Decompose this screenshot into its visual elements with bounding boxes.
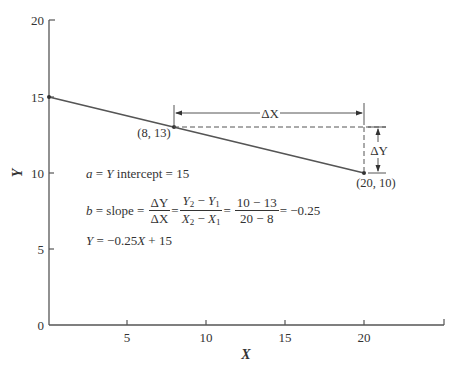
x-ticks [127, 320, 364, 325]
equation-mid: = −0.25 [93, 233, 137, 248]
point-label-20-10: (20, 10) [356, 176, 396, 190]
y-tick-label: 10 [31, 166, 44, 181]
data-point-intercept [47, 95, 51, 99]
fraction-values: 10 − 13 20 − 8 [235, 196, 279, 225]
fraction-coords: Y2 − Y1 X2 − X1 [180, 194, 223, 227]
y-tick-label: 5 [38, 242, 45, 257]
y-tick-label: 15 [31, 90, 44, 105]
x-tick-label: 10 [200, 330, 213, 345]
slope-text: = slope = [93, 204, 148, 217]
arrowhead-right [356, 111, 363, 116]
slope-annotation: b = slope = ΔY ΔX = Y2 − Y1 X2 − X1 = 10… [86, 194, 320, 227]
eq-sign: = [223, 204, 230, 217]
fraction-delta: ΔY ΔX [149, 196, 171, 225]
minus: − [194, 193, 208, 208]
y-axis-title: Y [10, 167, 25, 177]
regression-line [49, 97, 364, 173]
equation-rest: + 15 [145, 233, 172, 248]
x-tick-label: 20 [358, 330, 371, 345]
var: X [182, 211, 190, 226]
y-tick-label: 0 [38, 318, 45, 333]
intercept-text: intercept = 15 [114, 166, 190, 181]
y-ticks [49, 97, 54, 249]
arrowhead-down [376, 165, 381, 172]
frac-den: ΔX [149, 211, 171, 225]
frac-num: ΔY [149, 196, 171, 211]
x-tick-label: 5 [124, 330, 131, 345]
frac-num: 10 − 13 [235, 196, 279, 211]
x-tick-label: 15 [279, 330, 292, 345]
eq-sign: = [93, 166, 107, 181]
var-X: X [137, 233, 145, 248]
slope-result: = −0.25 [280, 204, 321, 217]
arrowhead-up [376, 128, 381, 135]
equation-annotation: Y = −0.25X + 15 [86, 234, 172, 247]
var: Y [182, 193, 189, 208]
frac-den: 20 − 8 [238, 211, 275, 225]
chart-canvas: 20 15 10 5 0 5 10 15 20 X Y (8, 13) (20,… [0, 0, 460, 368]
var: X [208, 211, 216, 226]
frac-num: Y2 − Y1 [180, 194, 221, 211]
y-tick-label: 20 [31, 13, 44, 28]
x-axis-title: X [240, 347, 251, 362]
minus: − [194, 211, 208, 226]
arrowhead-left [175, 111, 182, 116]
sub: 1 [216, 217, 221, 227]
eq-sign: = [171, 204, 178, 217]
frac-den: X2 − X1 [180, 211, 223, 227]
delta-x-label: ΔX [261, 106, 279, 121]
var-Y: Y [106, 166, 113, 181]
point-label-8-13: (8, 13) [137, 126, 170, 140]
delta-y-label: ΔY [370, 143, 388, 158]
sub: 1 [215, 199, 220, 209]
intercept-annotation: a = Y intercept = 15 [86, 167, 189, 180]
